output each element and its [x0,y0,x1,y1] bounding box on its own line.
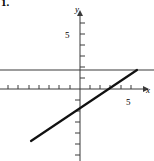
graph-figure: 1. [0,0,154,161]
x-axis-label: x [145,85,150,95]
coordinate-plane: y x 5 5 [0,0,154,161]
y-axis-tick-label-5: 5 [65,30,70,40]
plotted-line [31,70,137,141]
x-axis-ticks-negative [8,85,70,89]
y-axis-label: y [74,4,79,14]
x-axis-tick-label-5: 5 [126,97,131,107]
